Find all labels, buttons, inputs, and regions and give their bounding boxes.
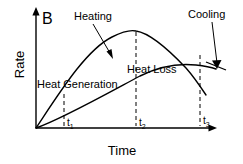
annotation-heat-generation: Heat Generation xyxy=(37,79,118,90)
x-tick-label-t3: t3 xyxy=(203,115,210,128)
panel-letter: B xyxy=(42,11,53,27)
annotation-heating: Heating xyxy=(74,11,112,22)
annotation-heat-loss: Heat Loss xyxy=(127,64,177,75)
heating-leader-arrowhead xyxy=(107,49,114,59)
cooling-leader-line xyxy=(212,22,217,63)
x-tick-sub-t2: 2 xyxy=(142,123,146,130)
y-axis-label: Rate xyxy=(13,42,26,88)
x-tick-label-t1: t1 xyxy=(67,117,74,130)
heat-generation-curve xyxy=(36,64,216,128)
x-tick-sub-t3: 3 xyxy=(206,121,210,128)
thermal-rate-diagram: B Heating Cooling Heat Loss Heat Generat… xyxy=(0,0,243,164)
x-tick-sub-t1: 1 xyxy=(70,123,74,130)
x-axis-label: Time xyxy=(92,144,152,157)
x-tick-label-t2: t2 xyxy=(139,117,146,130)
y-axis-arrowhead xyxy=(32,7,39,16)
annotation-cooling: Cooling xyxy=(188,9,225,20)
